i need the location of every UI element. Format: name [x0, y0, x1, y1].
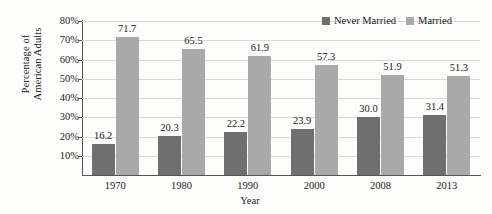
chart-legend: Never MarriedMarried: [322, 14, 452, 27]
y-axis-tick-labels: 80%70%60%50%40%30%20%10%: [33, 0, 79, 214]
legend-entry-never-married: Never Married: [322, 15, 396, 26]
bar-2013-never-married: [423, 115, 446, 175]
y-axis-tick-mark: [78, 156, 82, 157]
y-axis-tick-label: 50%: [37, 74, 79, 85]
bar-1970-never-married: [92, 144, 115, 175]
legend-label: Never Married: [334, 15, 396, 26]
y-axis-tick-mark: [78, 40, 82, 41]
bar-2000-never-married: [291, 129, 314, 175]
y-axis-tick-mark: [78, 117, 82, 118]
bar-2008-never-married: [357, 117, 380, 175]
y-axis-tick-label: 80%: [37, 16, 79, 27]
bar-1970-married: [116, 37, 139, 175]
gridline: [82, 117, 480, 118]
x-axis-title: Year: [0, 195, 492, 206]
gridline: [82, 137, 480, 138]
bar-value-label: 65.5: [176, 36, 211, 47]
legend-label: Married: [418, 15, 452, 26]
bar-chart-figure: Percentage of American Adults 80%70%60%5…: [0, 0, 492, 214]
x-axis-tick-label-1980: 1980: [148, 180, 214, 191]
x-axis-title-text: Year: [240, 195, 259, 206]
gridline: [82, 156, 480, 157]
legend-swatch-icon: [322, 17, 330, 25]
x-axis-tick-label-2000: 2000: [281, 180, 347, 191]
gridline: [82, 98, 480, 99]
y-axis-tick-label: 10%: [37, 151, 79, 162]
y-axis-tick-mark: [78, 60, 82, 61]
bar-2013-married: [447, 76, 470, 175]
bar-1990-married: [248, 56, 271, 175]
y-axis-title-line1: Percentage of: [20, 35, 33, 94]
bar-2008-married: [381, 75, 404, 175]
x-axis-tick-label-1990: 1990: [215, 180, 281, 191]
y-axis-tick-label: 70%: [37, 35, 79, 46]
x-axis-tick-label-2008: 2008: [347, 180, 413, 191]
x-axis-line: [82, 175, 481, 176]
y-axis-tick-mark: [78, 21, 82, 22]
bar-value-label: 61.9: [242, 43, 277, 54]
bar-value-label: 57.3: [309, 52, 344, 63]
gridline: [82, 40, 480, 41]
y-axis-tick-label: 30%: [37, 112, 79, 123]
bar-value-label: 51.3: [441, 63, 476, 74]
gridline: [82, 79, 480, 80]
gridline: [82, 60, 480, 61]
y-axis-tick-mark: [78, 98, 82, 99]
plot-area: 16.271.720.365.522.261.923.957.330.051.9…: [82, 21, 480, 175]
x-axis-tick-label-1970: 1970: [82, 180, 148, 191]
y-axis-tick-label: 40%: [37, 93, 79, 104]
bar-1990-never-married: [224, 132, 247, 175]
legend-swatch-icon: [406, 17, 414, 25]
x-axis-tick-label-2013: 2013: [414, 180, 480, 191]
bar-2000-married: [315, 65, 338, 175]
legend-entry-married: Married: [406, 15, 452, 26]
bar-1980-married: [182, 49, 205, 175]
y-axis-tick-mark: [78, 79, 82, 80]
y-axis-tick-mark: [78, 137, 82, 138]
bar-1980-never-married: [158, 136, 181, 175]
bar-value-label: 71.7: [110, 24, 145, 35]
y-axis-tick-label: 20%: [37, 132, 79, 143]
bar-value-label: 51.9: [375, 62, 410, 73]
y-axis-tick-label: 60%: [37, 55, 79, 66]
